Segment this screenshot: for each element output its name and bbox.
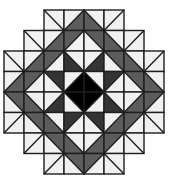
tile-cell <box>144 92 164 113</box>
tile-cell <box>24 72 44 93</box>
tile-cell <box>84 133 104 154</box>
tile-cell <box>24 51 44 72</box>
tile-cell <box>4 92 24 113</box>
tile-cell <box>104 51 124 72</box>
tile-cell <box>64 72 84 93</box>
tile-cell <box>84 154 104 175</box>
tile-pattern-figure <box>0 0 171 184</box>
tile-cell <box>84 113 104 134</box>
tile-cell <box>124 92 144 113</box>
tile-cell <box>124 133 144 154</box>
tile-cell <box>4 72 24 93</box>
tile-cell <box>44 113 64 134</box>
tile-cell <box>64 31 84 52</box>
tile-cell <box>104 154 124 175</box>
tile-cell <box>64 92 84 113</box>
tile-cell <box>44 10 64 31</box>
tile-cell <box>44 154 64 175</box>
tile-cell <box>124 51 144 72</box>
tile-cell <box>64 10 84 31</box>
tile-cell <box>44 31 64 52</box>
tile-cell <box>44 51 64 72</box>
tile-cell <box>4 51 24 72</box>
tile-cell <box>24 113 44 134</box>
tile-cell <box>124 31 144 52</box>
tile-cell <box>104 72 124 93</box>
tile-cell <box>84 72 104 93</box>
tile-cell <box>84 51 104 72</box>
tile-cell <box>84 92 104 113</box>
tile-cell <box>104 92 124 113</box>
tile-cell <box>44 92 64 113</box>
tile-cell <box>104 31 124 52</box>
tile-cell <box>24 31 44 52</box>
tile-cell <box>84 31 104 52</box>
tile-cell <box>144 72 164 93</box>
tile-pattern-svg <box>0 0 171 184</box>
tile-cell <box>104 10 124 31</box>
tile-cell <box>64 133 84 154</box>
tile-cell <box>24 133 44 154</box>
tile-cell <box>44 72 64 93</box>
tile-cell <box>104 113 124 134</box>
tile-cell <box>124 72 144 93</box>
tile-cell <box>64 113 84 134</box>
tile-cell <box>144 113 164 134</box>
tile-cell <box>4 113 24 134</box>
tile-cell <box>104 133 124 154</box>
tile-cell <box>24 92 44 113</box>
tile-cell <box>144 51 164 72</box>
tile-cell <box>124 113 144 134</box>
tile-cell <box>64 154 84 175</box>
tile-cell <box>44 133 64 154</box>
tile-cell <box>84 10 104 31</box>
tile-cell <box>64 51 84 72</box>
